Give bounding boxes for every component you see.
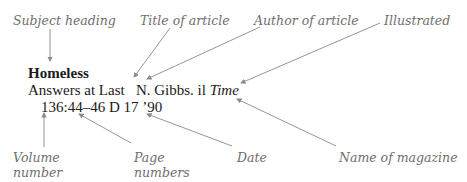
label-date: Date bbox=[237, 150, 267, 165]
magazine-name: Time bbox=[210, 82, 239, 98]
article-author: N. Gibbs. bbox=[136, 82, 194, 98]
label-author-of-article: Author of article bbox=[254, 13, 359, 28]
page-numbers: :44–46 bbox=[64, 99, 106, 115]
arrow-name-of-magazine bbox=[237, 99, 336, 146]
publication-date: D 17 ’90 bbox=[105, 99, 162, 115]
arrow-date bbox=[147, 114, 232, 146]
label-name-of-magazine: Name of magazine bbox=[339, 150, 458, 165]
subject-heading-text: Homeless bbox=[28, 65, 89, 82]
arrow-title-of-article bbox=[134, 28, 170, 77]
arrow-author-of-article bbox=[147, 27, 260, 79]
label-title-of-article: Title of article bbox=[140, 13, 230, 28]
label-page-numbers-line1: Page bbox=[134, 150, 165, 165]
label-illustrated: Illustrated bbox=[384, 13, 450, 28]
arrow-illustrated bbox=[241, 23, 380, 83]
arrow-page-numbers bbox=[79, 114, 131, 143]
label-subject-heading: Subject heading bbox=[13, 13, 116, 28]
periodical-index-entry-diagram: Subject heading Title of article Author … bbox=[0, 0, 467, 182]
illustrated-abbrev: il bbox=[198, 82, 206, 98]
entry-line-title-author: Answers at Last N. Gibbs. il Time bbox=[28, 82, 239, 99]
volume-number: 136 bbox=[41, 99, 64, 115]
label-page-numbers-line2: numbers bbox=[134, 165, 190, 180]
label-volume-number-line1: Volume bbox=[13, 150, 60, 165]
article-title: Answers at Last bbox=[28, 82, 125, 98]
entry-line-citation: 136:44–46 D 17 ’90 bbox=[41, 99, 162, 116]
label-volume-number-line2: number bbox=[13, 165, 62, 180]
